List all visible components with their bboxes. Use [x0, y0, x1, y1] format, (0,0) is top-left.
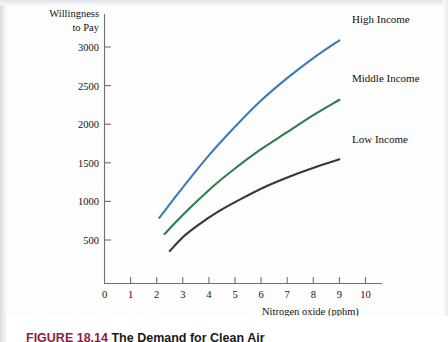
y-axis-ticks — [105, 47, 112, 240]
x-tick-label: 2 — [154, 289, 159, 300]
x-tick-label: 8 — [311, 289, 316, 300]
y-tick-label: 1000 — [78, 196, 99, 207]
x-tick-label: 0 — [102, 289, 107, 300]
y-axis-title-line1: Willingness — [49, 8, 99, 19]
x-axis-ticks — [131, 277, 366, 284]
y-axis-title: Willingness to Pay — [49, 8, 99, 33]
chart-series-group — [159, 40, 339, 251]
series-line-high-income — [159, 40, 339, 218]
x-tick-label: 6 — [258, 289, 263, 300]
x-tick-label: 3 — [180, 289, 185, 300]
x-tick-label: 4 — [206, 289, 212, 300]
x-tick-label: 5 — [232, 289, 237, 300]
x-tick-label: 9 — [337, 289, 342, 300]
y-axis-title-line2: to Pay — [72, 22, 99, 33]
series-label-middle-income: Middle Income — [352, 72, 420, 84]
figure-number: FIGURE 18.14 — [26, 331, 108, 342]
y-tick-label: 1500 — [78, 158, 99, 169]
chart-svg: 3000 2500 2000 1500 1000 500 Willingness… — [0, 0, 448, 318]
demand-for-clean-air-chart: 3000 2500 2000 1500 1000 500 Willingness… — [0, 0, 448, 318]
series-label-high-income: High Income — [352, 13, 410, 25]
x-tick-label: 10 — [360, 289, 371, 300]
y-tick-label: 3000 — [78, 42, 99, 53]
y-tick-label: 2500 — [78, 81, 99, 92]
y-tick-label: 2000 — [78, 119, 99, 130]
figure-page: 3000 2500 2000 1500 1000 500 Willingness… — [0, 0, 448, 342]
y-axis-tick-labels: 3000 2500 2000 1500 1000 500 — [78, 42, 99, 246]
figure-title: The Demand for Clean Air — [111, 331, 264, 342]
chart-axes — [105, 14, 383, 284]
y-tick-label: 500 — [83, 235, 99, 246]
x-tick-label: 1 — [128, 289, 133, 300]
figure-caption: FIGURE 18.14 The Demand for Clean Air — [26, 331, 265, 342]
x-axis-tick-labels: 0 1 2 3 4 5 6 7 8 9 10 — [102, 289, 371, 300]
x-tick-label: 7 — [285, 289, 290, 300]
series-label-low-income: Low Income — [352, 133, 408, 145]
